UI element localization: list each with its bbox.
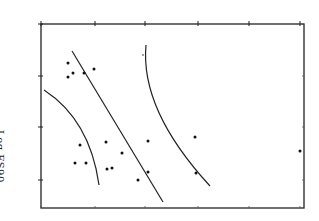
data-point (111, 167, 114, 170)
faint-data-point (142, 54, 144, 56)
data-point (67, 76, 70, 79)
data-point (79, 144, 82, 147)
data-point (93, 68, 96, 71)
data-point (85, 162, 88, 165)
data-point (67, 62, 70, 65)
regression-line (72, 51, 163, 202)
lower-confidence-curve (44, 90, 99, 185)
data-point (147, 171, 150, 174)
scatter-plot (0, 0, 319, 221)
data-point (105, 141, 108, 144)
data-points (67, 54, 302, 181)
data-point (137, 179, 140, 182)
data-point (194, 136, 197, 139)
data-point (74, 162, 77, 165)
data-point (106, 168, 109, 171)
data-point (299, 150, 302, 153)
data-point (195, 172, 198, 175)
y-axis-label: Log FS90 (0, 130, 6, 183)
plot-frame (41, 24, 304, 208)
axis-ticks (38, 21, 304, 208)
plot-border (41, 24, 304, 208)
upper-confidence-curve (146, 45, 210, 186)
data-point (83, 72, 86, 75)
data-point (121, 152, 124, 155)
data-point (72, 72, 75, 75)
data-point (147, 140, 150, 143)
fit-lines (44, 45, 210, 202)
